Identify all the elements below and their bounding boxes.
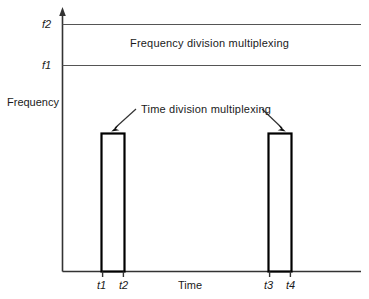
time-tick-label-t1: t1	[97, 280, 106, 291]
y-axis	[59, 7, 66, 272]
time-tick-label-t3: t3	[264, 280, 273, 291]
frequency-tick-label-f2: f2	[42, 19, 51, 30]
time-tick-label-t4: t4	[286, 280, 295, 291]
time-tick-marks	[103, 272, 291, 278]
tdm-bar-right-rect	[269, 134, 292, 272]
tdm-bar-left	[102, 134, 125, 272]
x-axis-title: Time	[178, 280, 202, 291]
y-axis-title: Frequency	[7, 97, 59, 108]
fdm-band-label: Frequency division multiplexing	[130, 38, 289, 49]
y-axis-arrowhead	[59, 7, 66, 16]
frequency-tick-label-f1: f1	[42, 60, 51, 71]
tdm-bar-left-rect	[102, 134, 125, 272]
tdm-bar-right	[269, 134, 292, 272]
tdm-callout-label: Time division multiplexing	[141, 104, 271, 115]
figure-canvas: f2 f1 Frequency Frequency division multi…	[0, 0, 369, 299]
time-tick-label-t2: t2	[119, 280, 128, 291]
